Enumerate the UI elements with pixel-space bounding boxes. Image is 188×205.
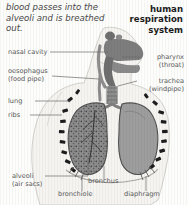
label-trachea-text: trachea [159,77,184,85]
label-pharynx: pharynx (throat) [157,53,184,69]
label-alveoli-sub: (air sacs) [12,180,42,188]
title-line-1: human [150,4,183,14]
label-bronchiole: bronchiole [58,190,93,198]
label-oesophagus: oesophagus (food pipe) [8,67,48,83]
label-nasal-cavity-text: nasal cavity [8,48,48,56]
lung-right [119,103,158,175]
label-alveoli: alveoli (air sacs) [12,172,42,188]
label-lung: lung [8,97,22,105]
label-ribs-text: ribs [8,111,20,119]
title-line-2: respiration [130,14,183,24]
intro-text: blood passes into the alveoli and is bre… [6,2,110,34]
trachea [107,86,117,104]
label-diaphragm-text: diaphragm [124,190,160,198]
label-trachea-sub: (windpipe) [149,85,184,93]
label-bronchus-text: bronchus [88,177,118,185]
figure-title: human respiration system [109,4,183,35]
label-lung-text: lung [8,97,22,105]
label-nasal-cavity: nasal cavity [8,48,48,56]
label-ribs: ribs [8,111,20,119]
label-bronchiole-text: bronchiole [58,190,93,198]
label-alveoli-text: alveoli [12,172,34,180]
title-line-3: system [148,25,183,35]
label-oesophagus-sub: (food pipe) [8,75,48,83]
label-pharynx-sub: (throat) [157,61,184,69]
label-oesophagus-text: oesophagus [8,67,48,75]
label-diaphragm: diaphragm [124,190,160,198]
label-trachea: trachea (windpipe) [149,77,184,93]
label-pharynx-text: pharynx [157,53,184,61]
respiration-system-figure: blood passes into the alveoli and is bre… [0,0,188,205]
oesophagus [99,76,100,100]
label-bronchus: bronchus [88,177,118,185]
